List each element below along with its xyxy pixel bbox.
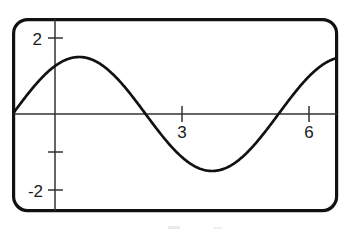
sine-curve-plot: 2 -2 3 6	[0, 0, 347, 234]
x-axis-label-3: 3	[177, 123, 186, 142]
figure-container: 2 -2 3 6	[0, 0, 347, 234]
y-axis-label-minus-2: -2	[28, 182, 43, 201]
plot-frame	[14, 20, 337, 211]
x-axis-label-6: 6	[304, 123, 313, 142]
y-axis-label-2: 2	[33, 30, 42, 49]
scan-artifact-right	[213, 227, 222, 229]
scan-artifact-left	[168, 226, 180, 229]
